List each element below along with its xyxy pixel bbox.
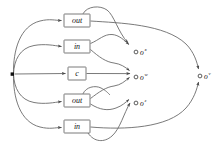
output-x: o x xyxy=(134,47,148,57)
box-out-2[interactable]: out xyxy=(64,94,90,107)
output-v-base: o xyxy=(204,72,208,81)
box-in-1[interactable]: in xyxy=(64,40,90,53)
edge-source-to-in2 xyxy=(13,74,61,128)
edge-source-to-out1 xyxy=(13,20,61,74)
edge-out2-to-oz xyxy=(91,100,130,110)
output-w-sup: w xyxy=(145,72,149,77)
output-v-sup: v xyxy=(209,71,212,76)
output-z-circle xyxy=(134,101,138,105)
edge-in2-to-ov xyxy=(91,82,199,128)
source-node xyxy=(11,72,14,75)
output-v: o v xyxy=(198,71,212,81)
box-out-2-label: out xyxy=(72,96,83,105)
edge-out2-to-ow xyxy=(91,78,130,99)
output-x-base: o xyxy=(140,48,144,57)
box-out-1-label: out xyxy=(72,16,83,25)
diagram-svg: out in c out in xyxy=(0,0,218,149)
output-z: o z xyxy=(134,98,147,108)
output-z-sup: z xyxy=(144,98,147,103)
box-in-1-label: in xyxy=(74,42,80,51)
edge-in2-to-oz xyxy=(88,103,130,141)
edge-in1-to-ow xyxy=(91,50,130,71)
output-v-circle xyxy=(198,74,202,78)
edge-source-to-out2 xyxy=(14,74,62,103)
output-w-circle xyxy=(134,75,138,79)
edge-out1-to-ov xyxy=(91,21,199,69)
edge-source-to-in1 xyxy=(14,45,62,74)
edge-source-to-c xyxy=(15,74,66,75)
box-c[interactable]: c xyxy=(68,67,86,80)
box-in-2[interactable]: in xyxy=(64,120,90,133)
output-w: o w xyxy=(134,72,149,82)
output-x-sup: x xyxy=(144,47,148,52)
diagram-canvas: out in c out in xyxy=(0,0,218,149)
box-in-2-label: in xyxy=(74,122,80,131)
output-x-circle xyxy=(134,50,138,54)
output-w-base: o xyxy=(140,73,144,82)
edges-source-to-boxes xyxy=(13,20,65,129)
output-z-base: o xyxy=(140,99,144,108)
box-out-1[interactable]: out xyxy=(64,14,90,27)
box-c-label: c xyxy=(75,69,79,78)
